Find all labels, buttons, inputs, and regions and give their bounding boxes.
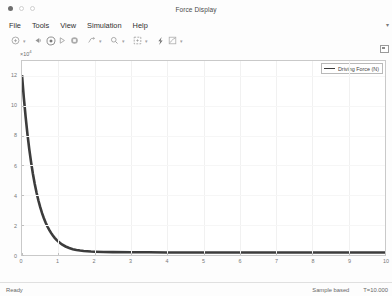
x-tick-mark bbox=[167, 253, 168, 255]
x-tick-label: 3 bbox=[129, 258, 132, 264]
y-gridline bbox=[22, 106, 385, 107]
menu-help[interactable]: Help bbox=[133, 21, 148, 30]
maximize-window-button[interactable] bbox=[30, 6, 35, 11]
x-tick-mark bbox=[385, 253, 386, 255]
y-tick-label: 2 bbox=[14, 223, 17, 229]
toolbar: ▾ bbox=[0, 33, 392, 48]
x-tick-mark bbox=[312, 253, 313, 255]
close-window-button[interactable] bbox=[8, 6, 13, 11]
step-forward-icon[interactable] bbox=[57, 35, 68, 46]
menu-file[interactable]: File bbox=[9, 21, 21, 30]
legend[interactable]: Driving Force (N) bbox=[321, 63, 383, 74]
status-time-label: T=10.000 bbox=[363, 287, 388, 293]
x-tick-label: 2 bbox=[93, 258, 96, 264]
y-tick-mark bbox=[22, 195, 24, 196]
zoom-dropdown-chevron-icon[interactable]: ▾ bbox=[121, 35, 126, 46]
trigger-dropdown-chevron-icon[interactable]: ▾ bbox=[98, 35, 103, 46]
x-tick-label: 9 bbox=[348, 258, 351, 264]
y-tick-mark bbox=[22, 76, 24, 77]
legend-swatch-driving-force bbox=[324, 68, 335, 70]
menu-overflow-chevron-icon[interactable]: ▾ bbox=[386, 21, 389, 28]
menu-view[interactable]: View bbox=[60, 21, 76, 30]
x-tick-mark bbox=[131, 253, 132, 255]
x-tick-label: 0 bbox=[20, 258, 23, 264]
signal-statistics-icon[interactable] bbox=[167, 35, 178, 46]
legend-label-driving-force: Driving Force (N) bbox=[338, 66, 379, 72]
force-display-window: Force Display File Tools View Simulation… bbox=[0, 0, 392, 296]
y-tick-label: 12 bbox=[11, 72, 17, 78]
autoscale-dropdown-chevron-icon[interactable]: ▾ bbox=[144, 35, 149, 46]
axes-box[interactable]: Driving Force (N) bbox=[21, 60, 386, 256]
x-tick-mark bbox=[240, 253, 241, 255]
dock-window-button[interactable] bbox=[380, 45, 389, 53]
menu-bar: File Tools View Simulation Help ▾ bbox=[0, 18, 392, 33]
x-tick-label: 5 bbox=[202, 258, 205, 264]
x-tick-label: 10 bbox=[383, 258, 389, 264]
window-title: Force Display bbox=[0, 6, 392, 13]
y-tick-mark bbox=[22, 106, 24, 107]
x-tick-mark bbox=[95, 253, 96, 255]
status-ready-label: Ready bbox=[6, 287, 312, 293]
y-tick-mark bbox=[22, 255, 24, 256]
y-tick-label: 10 bbox=[11, 102, 17, 108]
y-tick-mark bbox=[22, 225, 24, 226]
statistics-dropdown-chevron-icon[interactable]: ▾ bbox=[179, 35, 184, 46]
menu-tools[interactable]: Tools bbox=[32, 21, 49, 30]
zoom-in-icon[interactable] bbox=[109, 35, 120, 46]
x-tick-label: 8 bbox=[312, 258, 315, 264]
x-tick-mark bbox=[276, 253, 277, 255]
minimize-window-button[interactable] bbox=[19, 6, 24, 11]
x-axis-tick-labels: 012345678910 bbox=[21, 258, 386, 267]
autoscale-icon[interactable] bbox=[132, 35, 143, 46]
y-axis-exponent-label: ×104 bbox=[20, 49, 32, 57]
y-tick-label: 8 bbox=[14, 132, 17, 138]
y-gridline bbox=[22, 136, 385, 137]
y-gridline bbox=[22, 76, 385, 77]
print-icon[interactable] bbox=[10, 35, 21, 46]
plot-area: ×104 024681012 012345678910 Driving Forc… bbox=[0, 48, 392, 282]
x-tick-label: 7 bbox=[275, 258, 278, 264]
print-dropdown-chevron-icon[interactable]: ▾ bbox=[22, 35, 27, 46]
status-sample-mode-label: Sample based bbox=[312, 287, 349, 293]
y-tick-label: 0 bbox=[14, 253, 17, 259]
x-tick-label: 1 bbox=[56, 258, 59, 264]
x-tick-label: 6 bbox=[239, 258, 242, 264]
status-right-group: Sample based T=10.000 bbox=[312, 287, 388, 293]
window-controls bbox=[8, 6, 35, 11]
x-tick-mark bbox=[204, 253, 205, 255]
y-axis-tick-labels: 024681012 bbox=[0, 60, 19, 256]
trigger-icon[interactable] bbox=[86, 35, 97, 46]
y-gridline bbox=[22, 165, 385, 166]
measurements-cursor-icon[interactable] bbox=[155, 35, 166, 46]
x-tick-mark bbox=[349, 253, 350, 255]
x-tick-label: 4 bbox=[166, 258, 169, 264]
stop-icon[interactable] bbox=[69, 35, 80, 46]
y-gridline bbox=[22, 195, 385, 196]
y-tick-label: 4 bbox=[14, 193, 17, 199]
status-bar: Ready Sample based T=10.000 bbox=[0, 282, 392, 296]
menu-simulation[interactable]: Simulation bbox=[87, 21, 122, 30]
run-icon[interactable] bbox=[45, 35, 56, 46]
y-gridline bbox=[22, 225, 385, 226]
y-tick-mark bbox=[22, 136, 24, 137]
x-tick-mark bbox=[58, 253, 59, 255]
configuration-properties-icon[interactable] bbox=[33, 35, 44, 46]
title-bar: Force Display bbox=[0, 0, 392, 18]
y-tick-label: 6 bbox=[14, 163, 17, 169]
y-tick-mark bbox=[22, 165, 24, 166]
